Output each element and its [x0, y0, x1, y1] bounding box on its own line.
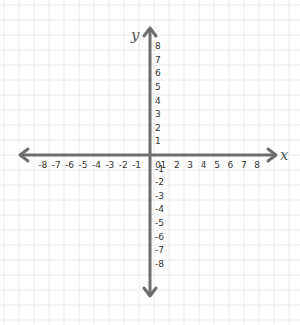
y-tick-label: -1 — [155, 164, 164, 174]
y-tick-label: -3 — [155, 191, 164, 201]
y-tick-label: 5 — [155, 82, 161, 92]
x-tick-label: 7 — [241, 160, 247, 170]
x-tick-label: 4 — [201, 160, 207, 170]
y-tick-label: 7 — [155, 55, 161, 65]
y-tick-label: -2 — [155, 177, 164, 187]
y-tick-label: 8 — [155, 41, 161, 51]
x-tick-label: -6 — [65, 160, 74, 170]
x-tick-label: 3 — [187, 160, 193, 170]
y-tick-label: -7 — [155, 245, 164, 255]
x-tick-label: -2 — [119, 160, 128, 170]
y-tick-label: -8 — [155, 259, 164, 269]
x-tick-label: -5 — [79, 160, 88, 170]
x-axis-label: x — [280, 146, 289, 164]
y-tick-label: 2 — [155, 123, 161, 133]
x-tick-label: -3 — [105, 160, 114, 170]
y-tick-label: 6 — [155, 68, 161, 78]
x-tick-label: 2 — [174, 160, 180, 170]
y-tick-label: -5 — [155, 218, 164, 228]
x-tick-label: -4 — [92, 160, 101, 170]
y-tick-label: 3 — [155, 109, 161, 119]
x-tick-label: 8 — [254, 160, 260, 170]
x-tick-label: 6 — [228, 160, 234, 170]
x-tick-label: -8 — [38, 160, 47, 170]
y-tick-label: -6 — [155, 232, 164, 242]
y-tick-label: 1 — [155, 136, 161, 146]
coordinate-plane: -8-7-6-5-4-3-2-1012345678 87654321-1-2-3… — [0, 0, 300, 325]
y-axis-label: y — [130, 26, 140, 44]
x-tick-label: -7 — [52, 160, 61, 170]
y-tick-label: 4 — [155, 96, 161, 106]
x-tick-label: 5 — [214, 160, 220, 170]
y-tick-label: -4 — [155, 204, 164, 214]
x-tick-label: -1 — [132, 160, 141, 170]
